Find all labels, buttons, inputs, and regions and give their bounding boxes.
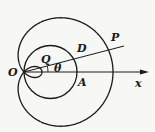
x-axis-arrow-icon: [140, 70, 149, 75]
ray-op: [24, 46, 124, 72]
label-o: O: [8, 67, 18, 78]
point-o: [23, 71, 25, 73]
label-p: P: [111, 32, 119, 43]
label-q: Q: [41, 54, 51, 65]
label-theta: θ: [54, 63, 61, 74]
label-a: A: [78, 77, 87, 88]
diagram-canvas: [0, 0, 155, 132]
diagram: O Q θ D A P x: [0, 0, 155, 132]
label-d: D: [77, 43, 87, 54]
theta-arc: [47, 66, 48, 72]
label-x: x: [135, 78, 142, 89]
